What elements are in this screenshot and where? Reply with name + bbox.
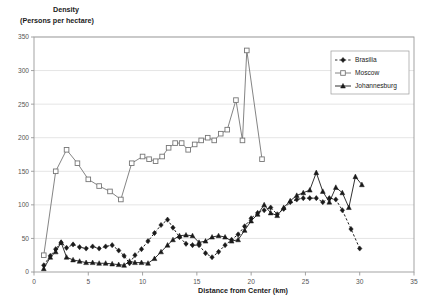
marker-moscow-2	[64, 148, 69, 153]
marker-moscow-19	[205, 135, 210, 140]
chart-container: Density (Persons per hectare) 0501001502…	[0, 0, 429, 302]
x-tick-label-30: 30	[356, 278, 364, 285]
x-tick-label-25: 25	[302, 278, 310, 285]
marker-moscow-20	[212, 138, 217, 143]
marker-moscow-18	[199, 138, 204, 143]
marker-moscow-11	[153, 159, 158, 164]
marker-moscow-8	[129, 161, 134, 166]
legend-marker-moscow	[341, 71, 346, 76]
y-tick-label-100: 100	[18, 201, 29, 208]
marker-moscow-24	[240, 138, 245, 143]
marker-moscow-7	[119, 197, 124, 202]
x-tick-label-35: 35	[410, 278, 418, 285]
y-axis-title-line-2: (Persons per hectare)	[20, 16, 95, 25]
marker-moscow-0	[41, 253, 46, 258]
density-distance-line-chart: Density (Persons per hectare) 0501001502…	[0, 0, 429, 302]
y-tick-label-350: 350	[18, 33, 29, 40]
y-tick-label-0: 0	[25, 268, 29, 275]
y-axis-title-line-1: Density	[53, 5, 79, 14]
marker-moscow-9	[140, 154, 145, 159]
x-tick-label-5: 5	[86, 278, 90, 285]
marker-moscow-15	[179, 141, 184, 146]
y-tick-label-50: 50	[22, 235, 30, 242]
marker-moscow-25	[245, 48, 250, 53]
marker-moscow-13	[166, 145, 171, 150]
y-tick-label-150: 150	[18, 168, 29, 175]
y-tick-label-200: 200	[18, 134, 29, 141]
marker-moscow-22	[225, 127, 230, 132]
x-tick-label-20: 20	[247, 278, 255, 285]
marker-moscow-10	[147, 157, 152, 162]
x-tick-label-15: 15	[193, 278, 201, 285]
legend-label-moscow: Moscow	[355, 69, 379, 76]
x-tick-label-0: 0	[32, 278, 36, 285]
legend-label-brasilia: Brasilia	[355, 56, 377, 63]
legend-item-moscow[interactable]: Moscow	[335, 69, 379, 76]
marker-moscow-1	[53, 169, 58, 174]
marker-moscow-17	[192, 142, 197, 147]
legend-label-johannesburg: Johannesburg	[355, 82, 397, 90]
x-axis-title: Distance from Center (km)	[198, 286, 288, 295]
x-tick-label-10: 10	[139, 278, 147, 285]
chart-legend[interactable]: BrasiliaMoscowJohannesburg	[331, 51, 409, 94]
y-tick-label-300: 300	[18, 67, 29, 74]
marker-moscow-23	[234, 98, 239, 103]
marker-moscow-14	[173, 141, 178, 146]
marker-moscow-4	[86, 177, 91, 182]
marker-moscow-16	[186, 148, 191, 153]
marker-moscow-12	[160, 154, 165, 159]
marker-moscow-21	[218, 131, 223, 136]
marker-moscow-3	[75, 161, 80, 166]
marker-moscow-5	[97, 184, 102, 189]
y-tick-label-250: 250	[18, 101, 29, 108]
marker-moscow-6	[108, 189, 113, 194]
marker-moscow-26	[260, 157, 265, 162]
